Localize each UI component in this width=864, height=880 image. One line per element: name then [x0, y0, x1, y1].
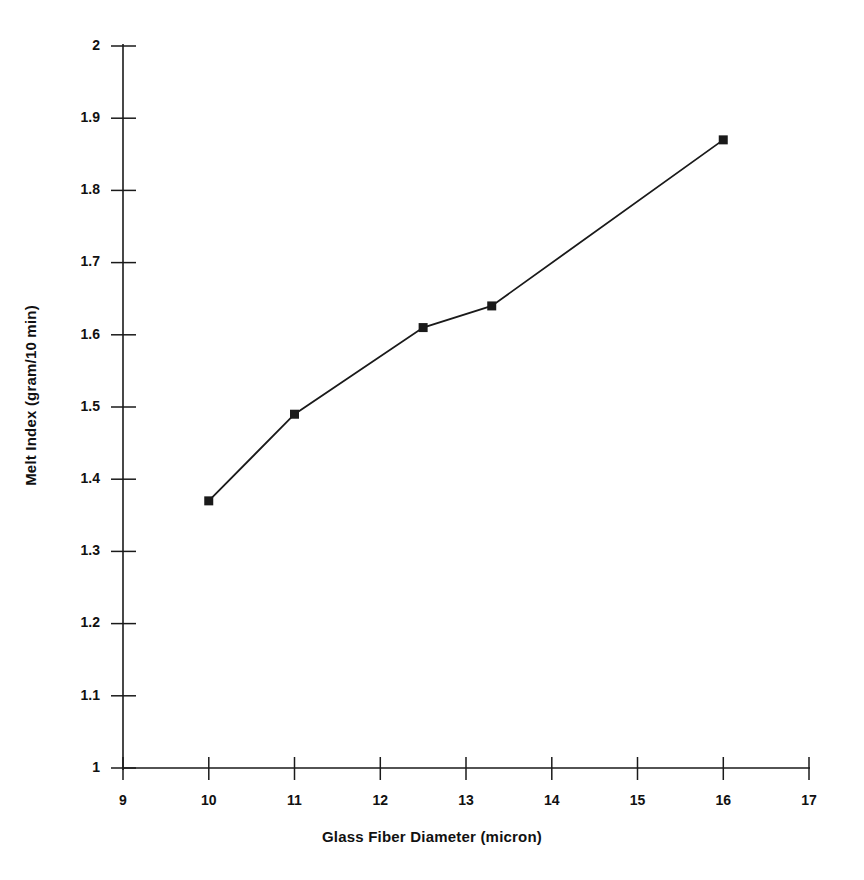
data-point-marker [204, 496, 213, 505]
line-chart: 2 1.9 1.8 1.7 1.6 1.5 1.4 1.3 1.2 1.1 1 … [0, 0, 864, 880]
x-tick-label: 16 [700, 792, 746, 808]
x-tick-label: 9 [100, 792, 146, 808]
x-tick-label: 12 [357, 792, 403, 808]
data-point-markers [204, 135, 728, 505]
x-tick-label: 13 [443, 792, 489, 808]
data-point-marker [419, 323, 428, 332]
x-tick-label: 15 [615, 792, 661, 808]
data-point-marker [290, 410, 299, 419]
plot-area [0, 0, 864, 880]
x-tick-label: 10 [186, 792, 232, 808]
x-tick-label: 17 [786, 792, 832, 808]
x-tick-label: 14 [529, 792, 575, 808]
data-point-marker [487, 301, 496, 310]
x-tick-label: 11 [272, 792, 318, 808]
data-series-line [209, 140, 724, 501]
y-axis-title: Melt Index (gram/10 min) [22, 305, 39, 486]
y-axis-title-container: Melt Index (gram/10 min) [0, 0, 60, 790]
data-point-marker [719, 135, 728, 144]
x-axis-title: Glass Fiber Diameter (micron) [0, 828, 864, 845]
